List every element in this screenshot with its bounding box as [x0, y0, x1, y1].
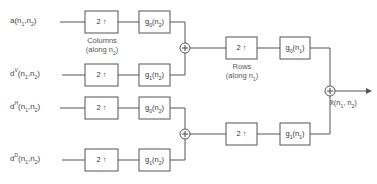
upsampler-label-row-bottom: 2 ↑ [226, 129, 257, 139]
up-arrow-icon: ↑ [103, 17, 107, 26]
output-arrowhead-icon [366, 88, 372, 94]
filter-label-a: g0(n2) [139, 17, 170, 27]
input-label-dd: dD(n1,n2) [10, 154, 40, 164]
up-arrow-icon: ↑ [243, 43, 247, 52]
upsampler-label-row-top: 2 ↑ [226, 43, 257, 53]
up-arrow-icon: ↑ [103, 70, 107, 79]
up-arrow-icon: ↑ [103, 155, 107, 164]
filter-label-row-top: g0(n1) [280, 43, 310, 53]
filter-label-row-bottom: g1(n1) [280, 129, 310, 139]
up-arrow-icon: ↑ [103, 103, 107, 112]
upsampler-label-a: 2 ↑ [85, 17, 118, 27]
signal-flow-lines [0, 0, 377, 184]
columns-caption: Columns (along n2) [80, 36, 124, 54]
filter-label-dh: g0(n2) [139, 103, 170, 113]
upsampler-label-dd: 2 ↑ [85, 155, 118, 165]
filter-label-dd: g1(n2) [139, 155, 170, 165]
input-label-dh: dH(n1,n2) [10, 102, 40, 112]
rows-caption: Rows (along n1) [219, 62, 265, 80]
output-label: x̂(n1, n2) [330, 98, 357, 108]
upsampler-label-dh: 2 ↑ [85, 103, 118, 113]
filter-label-dv: g1(n2) [139, 70, 170, 80]
input-label-a: a(n1,n2) [10, 16, 36, 26]
input-label-dv: dV(n1,n2) [10, 69, 40, 79]
upsampler-label-dv: 2 ↑ [85, 70, 118, 80]
up-arrow-icon: ↑ [243, 129, 247, 138]
